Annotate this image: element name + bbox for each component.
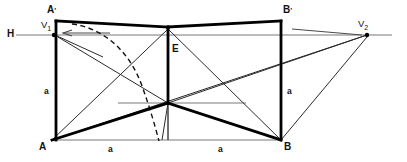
sightline-center-to-basemid: [162, 103, 168, 140]
corner-a-label: A: [39, 142, 46, 152]
corner-aprime-prime: ': [54, 6, 56, 15]
sightline-e-to-b: [168, 29, 281, 140]
corner-bprime-label: B': [283, 5, 292, 15]
left-side-dimension-label: a: [44, 87, 49, 96]
e-point-marker: [166, 26, 170, 30]
v1-label: V1: [41, 20, 51, 32]
horizon-label: H: [7, 29, 14, 39]
corner-aprime-label: A': [47, 5, 56, 15]
edge-center-to-b: [168, 103, 281, 140]
v2-point-marker: [365, 33, 369, 37]
sightline-a-to-e: [52, 29, 168, 140]
sightline-v1-diagonal: [58, 37, 168, 103]
perspective-diagram: H A' V1 B' V2 E a a A B a a: [0, 0, 407, 162]
v2-pointer-arrow: [292, 29, 362, 35]
v2-label: V2: [358, 19, 368, 31]
edge-ridge-to-bprime: [168, 21, 281, 27]
apex-label: E: [172, 44, 179, 54]
sightline-b-to-v2: [281, 37, 367, 140]
v2-subscript: 2: [364, 24, 368, 31]
sightline-center-to-v2: [168, 35, 367, 103]
base-left-dimension-label: a: [108, 145, 113, 154]
construction-arc-dashed: [72, 24, 159, 141]
diagram-canvas: [0, 0, 407, 162]
corner-b-label: B: [284, 142, 291, 152]
edge-a-to-center: [52, 103, 168, 140]
sightline-left-short-guide: [57, 36, 103, 57]
base-right-dimension-label: a: [218, 145, 223, 154]
right-side-dimension-label: a: [287, 87, 292, 96]
corner-bprime-prime: ': [290, 6, 292, 15]
v1-subscript: 1: [47, 25, 51, 32]
v1-point-marker: [52, 33, 56, 37]
